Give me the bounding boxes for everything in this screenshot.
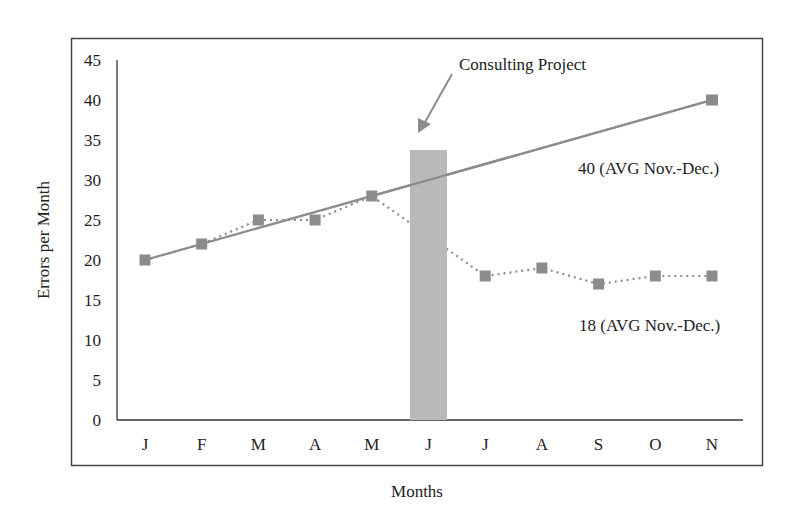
trend-end-marker <box>706 95 718 106</box>
arrow-icon <box>424 74 452 124</box>
data-point-marker <box>253 215 264 226</box>
y-tick-label: 35 <box>84 131 101 150</box>
x-tick-label: N <box>706 435 718 454</box>
series-layer <box>140 95 719 421</box>
x-tick-label: J <box>425 435 432 454</box>
y-tick-label: 30 <box>84 171 101 190</box>
y-tick-label: 45 <box>84 51 101 70</box>
x-axis-title: Months <box>391 482 443 501</box>
y-tick-label: 10 <box>84 331 101 350</box>
consulting-project-bar-overlay <box>410 150 447 420</box>
arrow-head-icon <box>418 118 431 133</box>
data-point-marker <box>196 239 207 250</box>
x-tick-label: S <box>594 435 603 454</box>
avg-18-label: 18 (AVG Nov.-Dec.) <box>579 316 720 335</box>
y-tick-label: 5 <box>93 371 102 390</box>
y-tick-label: 25 <box>84 211 101 230</box>
x-tick-label: J <box>142 435 149 454</box>
data-point-marker <box>310 215 321 226</box>
x-tick-label: M <box>364 435 379 454</box>
x-tick-label: O <box>649 435 661 454</box>
y-axis: 051015202530354045 <box>84 51 117 430</box>
y-tick-label: 20 <box>84 251 101 270</box>
annotations <box>418 74 452 133</box>
data-point-marker <box>707 271 718 282</box>
x-tick-label: F <box>197 435 206 454</box>
consulting-project-label: Consulting Project <box>459 55 586 74</box>
data-point-marker <box>140 255 151 266</box>
x-tick-label: A <box>309 435 322 454</box>
data-point-marker <box>480 271 491 282</box>
data-point-marker <box>366 191 377 202</box>
avg-40-label: 40 (AVG Nov.-Dec.) <box>578 159 719 178</box>
y-axis-title: Errors per Month <box>34 180 53 299</box>
x-tick-label: M <box>251 435 266 454</box>
data-point-marker <box>650 271 661 282</box>
data-point-marker <box>593 279 604 290</box>
data-point-marker <box>536 263 547 274</box>
chart: 051015202530354045 JFMAMJJASON Errors pe… <box>0 0 795 519</box>
y-tick-label: 0 <box>93 411 102 430</box>
y-tick-label: 40 <box>84 91 101 110</box>
x-tick-label: J <box>482 435 489 454</box>
x-axis: JFMAMJJASON <box>117 420 743 454</box>
y-tick-label: 15 <box>84 291 101 310</box>
trend-line-overlay <box>372 100 712 196</box>
x-tick-label: A <box>536 435 549 454</box>
